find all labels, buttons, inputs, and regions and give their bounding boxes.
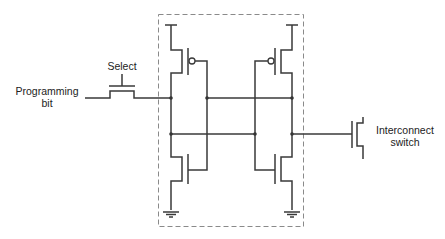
interconnect-switch-label-line1: Interconnect bbox=[370, 124, 440, 136]
interconnect-switch bbox=[292, 117, 363, 159]
select-transistor bbox=[85, 74, 170, 98]
right-inverter bbox=[255, 25, 300, 217]
sram-cell-schematic bbox=[0, 0, 445, 239]
programming-bit-label-line1: Programming bbox=[8, 85, 86, 97]
pmos-left bbox=[171, 25, 182, 98]
interconnect-switch-label-line2: switch bbox=[370, 136, 440, 148]
programming-bit-label-line2: bit bbox=[8, 97, 86, 109]
cross-coupling bbox=[169, 96, 294, 136]
left-inverter bbox=[163, 25, 207, 217]
sram-cell-boundary bbox=[159, 15, 304, 227]
interconnect-switch-label: Interconnect switch bbox=[370, 124, 440, 148]
nmos-right bbox=[281, 134, 292, 210]
nmos-left bbox=[171, 134, 182, 210]
select-label: Select bbox=[104, 60, 140, 72]
programming-bit-label: Programming bit bbox=[8, 85, 86, 109]
pmos-right bbox=[281, 25, 292, 98]
